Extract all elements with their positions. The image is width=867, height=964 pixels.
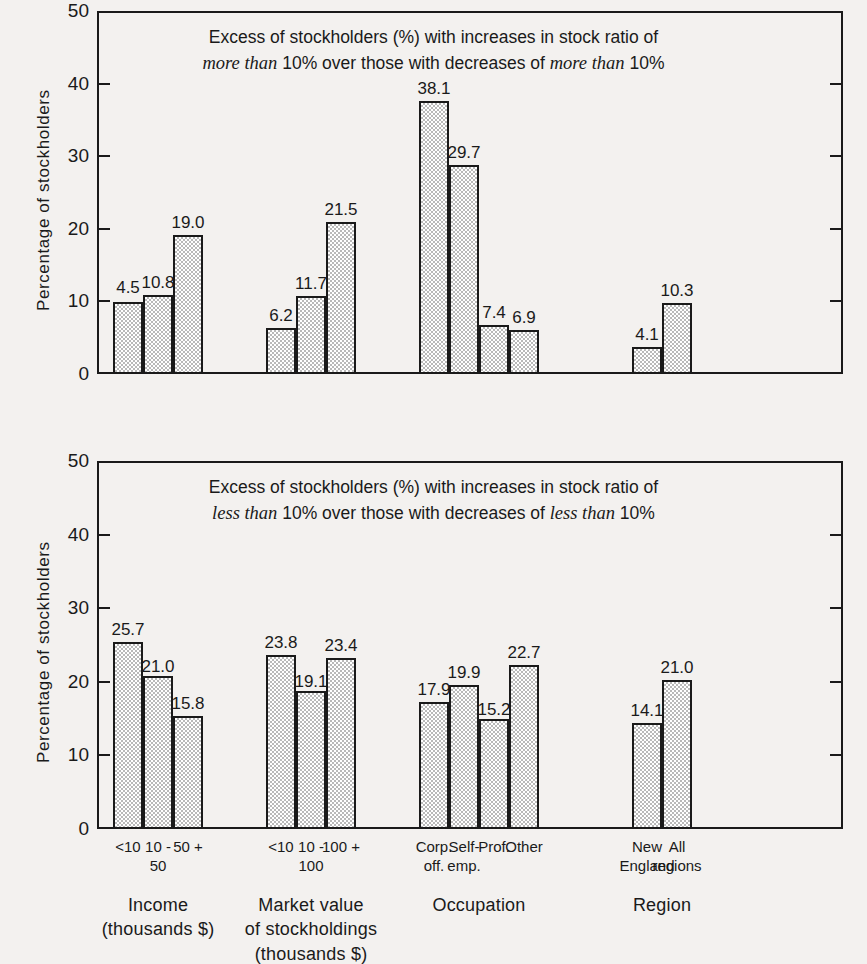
bar	[173, 716, 203, 829]
plot-title-line-1: Excess of stockholders (%) with increase…	[0, 475, 867, 500]
plot-title-line-2: less than 10% over those with decreases …	[0, 500, 867, 527]
y-tick-label: 50	[45, 1, 89, 20]
y-axis-title: Percentage of stockholders	[34, 541, 54, 763]
y-axis-title: Percentage of stockholders	[34, 89, 54, 311]
plot-title: Excess of stockholders (%) with increase…	[0, 25, 867, 77]
y-tick-label: 0	[45, 364, 89, 383]
bar-value-label: 19.9	[437, 664, 491, 681]
bar	[266, 328, 296, 374]
y-tick-mark	[97, 155, 110, 157]
bar	[632, 347, 662, 374]
x-group-label: Region	[552, 893, 772, 917]
plot-title-line-2: more than 10% over those with decreases …	[0, 50, 867, 77]
y-tick-mark-right	[830, 155, 843, 157]
y-tick-mark	[97, 754, 110, 756]
bar-value-label: 21.0	[650, 659, 704, 676]
x-category-label: 50 +	[153, 838, 223, 857]
bar	[632, 723, 662, 829]
y-tick-label: 50	[45, 451, 89, 470]
bar	[419, 702, 449, 829]
y-tick-mark-right	[830, 534, 843, 536]
bar	[449, 165, 479, 374]
bar-value-label: 23.4	[314, 637, 368, 654]
bar	[509, 330, 539, 374]
y-tick-mark-right	[830, 300, 843, 302]
bar	[296, 296, 326, 374]
x-category-label: Other	[489, 838, 559, 857]
y-tick-mark-right	[830, 228, 843, 230]
bar	[296, 691, 326, 829]
bar-value-label: 23.8	[254, 634, 308, 651]
bar-value-label: 10.3	[650, 282, 704, 299]
y-tick-label: 0	[45, 819, 89, 838]
bar-value-label: 29.7	[437, 144, 491, 161]
y-tick-mark-right	[830, 83, 843, 85]
bar	[479, 719, 509, 829]
y-tick-mark-right	[830, 681, 843, 683]
x-category-label: 100 +	[306, 838, 376, 857]
bar-value-label: 38.1	[407, 80, 461, 97]
plot-title: Excess of stockholders (%) with increase…	[0, 475, 867, 527]
bar	[173, 235, 203, 374]
bar	[479, 325, 509, 374]
bar-value-label: 19.0	[161, 214, 215, 231]
bar-value-label: 25.7	[101, 621, 155, 638]
y-tick-mark	[97, 300, 110, 302]
bar	[326, 658, 356, 829]
bar	[419, 101, 449, 374]
plot-title-line-1: Excess of stockholders (%) with increase…	[0, 25, 867, 50]
bar	[326, 222, 356, 374]
y-tick-mark	[97, 681, 110, 683]
bar-value-label: 21.5	[314, 201, 368, 218]
y-tick-mark	[97, 607, 110, 609]
bar	[143, 295, 173, 374]
x-category-label: All regions	[642, 838, 712, 876]
bar	[113, 302, 143, 374]
y-tick-mark	[97, 83, 110, 85]
bar	[662, 680, 692, 829]
y-tick-mark-right	[830, 607, 843, 609]
bar	[509, 665, 539, 829]
bar-value-label: 15.8	[161, 695, 215, 712]
bar	[662, 303, 692, 374]
bar-value-label: 21.0	[131, 658, 185, 675]
bar-value-label: 22.7	[497, 644, 551, 661]
y-tick-mark-right	[830, 754, 843, 756]
y-tick-mark	[97, 228, 110, 230]
y-tick-mark	[97, 534, 110, 536]
bar-value-label: 6.9	[497, 309, 551, 326]
